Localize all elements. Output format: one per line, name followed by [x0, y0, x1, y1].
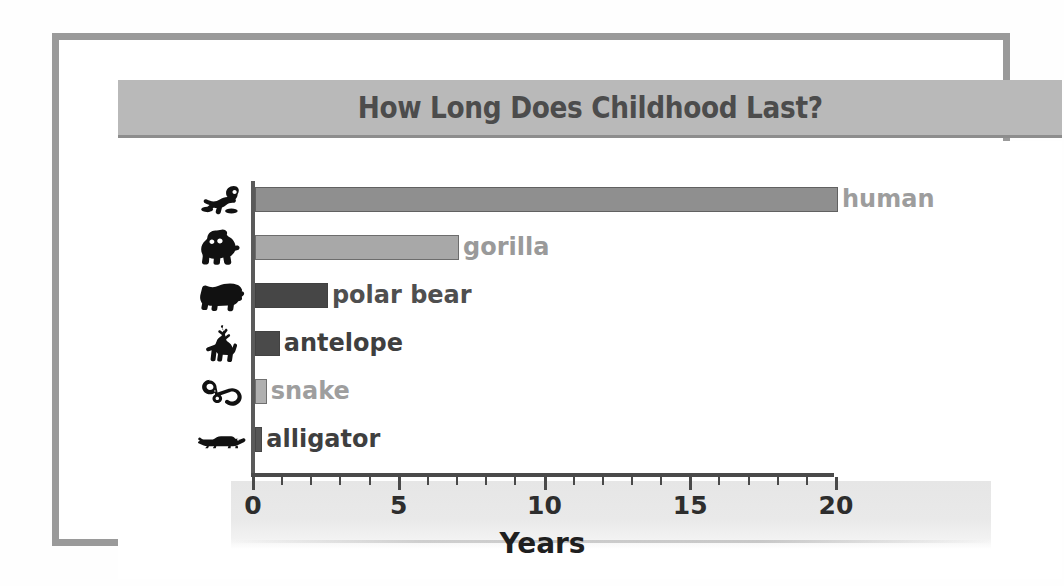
x-tick-19 [806, 477, 808, 485]
bar-polar-bear[interactable] [255, 283, 328, 308]
chart-title: How Long Does Childhood Last? [358, 90, 823, 125]
x-axis-line [251, 473, 834, 477]
bar-gorilla[interactable] [255, 235, 459, 260]
x-tick-3 [339, 477, 341, 485]
bar-alligator[interactable] [255, 427, 262, 452]
x-tick-14 [660, 477, 662, 485]
x-tick-1 [281, 477, 283, 485]
x-tick-0 [252, 477, 255, 490]
x-tick-label-20: 20 [819, 491, 854, 520]
chart-frame: How Long Does Childhood Last? humangoril… [52, 33, 1010, 546]
x-tick-15 [689, 477, 692, 490]
x-tick-10 [544, 477, 547, 490]
x-tick-11 [573, 477, 575, 485]
snake-icon [194, 370, 250, 414]
bar-label-gorilla: gorilla [463, 235, 549, 259]
plot-area: humangorillapolar bearantelopesnakeallig… [118, 141, 1062, 579]
bar-label-human: human [842, 187, 934, 211]
x-tick-5 [398, 477, 401, 490]
x-tick-2 [310, 477, 312, 485]
chart-canvas: humangorillapolar bearantelopesnakeallig… [118, 141, 1062, 579]
alligator-icon [194, 418, 250, 462]
bar-label-snake: snake [271, 379, 350, 403]
x-tick-12 [602, 477, 604, 485]
x-tick-label-0: 0 [244, 491, 261, 520]
x-axis-title: Years [251, 527, 834, 560]
bar-snake[interactable] [255, 379, 267, 404]
bar-label-polar-bear: polar bear [332, 283, 472, 307]
x-tick-label-15: 15 [673, 491, 708, 520]
x-tick-6 [427, 477, 429, 485]
bar-label-antelope: antelope [284, 331, 403, 355]
x-tick-label-10: 10 [527, 491, 562, 520]
x-tick-label-5: 5 [390, 491, 407, 520]
baby-icon [194, 178, 250, 222]
x-tick-20 [835, 477, 838, 490]
x-tick-8 [485, 477, 487, 485]
antelope-icon [194, 322, 250, 366]
bar-antelope[interactable] [255, 331, 280, 356]
x-tick-4 [369, 477, 371, 485]
x-tick-7 [456, 477, 458, 485]
x-tick-17 [748, 477, 750, 485]
gorilla-icon [194, 226, 250, 270]
x-tick-13 [631, 477, 633, 485]
x-tick-16 [718, 477, 720, 485]
bar-label-alligator: alligator [266, 427, 380, 451]
polar-bear-icon [194, 274, 250, 318]
chart-page: How Long Does Childhood Last? humangoril… [0, 0, 1064, 586]
bar-human[interactable] [255, 187, 838, 212]
x-tick-18 [777, 477, 779, 485]
x-tick-9 [514, 477, 516, 485]
chart-title-band: How Long Does Childhood Last? [118, 80, 1062, 138]
